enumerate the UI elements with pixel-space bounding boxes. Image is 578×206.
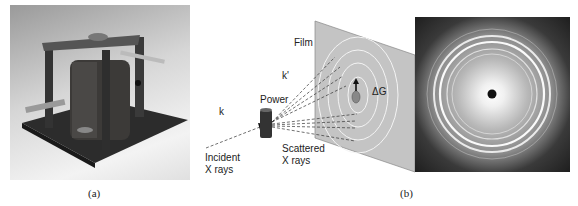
film-label: Film: [294, 37, 313, 48]
apparatus-illustration: [10, 5, 190, 180]
delta-g-label: ΔG: [372, 86, 386, 97]
apparatus-photo: [10, 5, 190, 180]
caption-a: (a): [88, 187, 100, 199]
scattered-xrays-label: Scattered X rays: [282, 143, 325, 167]
diffraction-rings: [415, 17, 570, 172]
diffraction-pattern-photo: [415, 17, 570, 172]
power-label: Power: [260, 94, 288, 105]
k-prime-label: k': [282, 70, 289, 81]
k-label: k: [219, 106, 224, 117]
incident-xrays-label: Incident X rays: [205, 152, 240, 176]
xray-diagram: Film k' k Power ΔG Incident X rays Scatt…: [190, 0, 415, 206]
caption-b: (b): [400, 187, 413, 199]
